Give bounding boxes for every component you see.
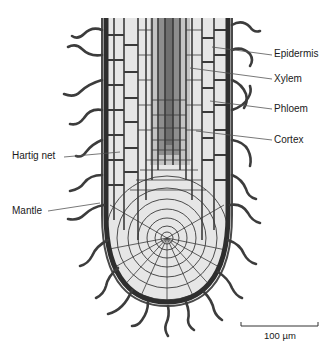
scale-bar-label: 100 µm [264,331,296,341]
label-hartig-net: Hartig net [12,151,55,161]
label-cortex: Cortex [274,135,303,145]
label-xylem: Xylem [274,74,302,84]
root-body [100,15,230,305]
scale-bar [241,322,318,326]
label-mantle: Mantle [12,206,42,216]
label-phloem: Phloem [274,104,308,114]
label-epidermis: Epidermis [274,49,318,59]
